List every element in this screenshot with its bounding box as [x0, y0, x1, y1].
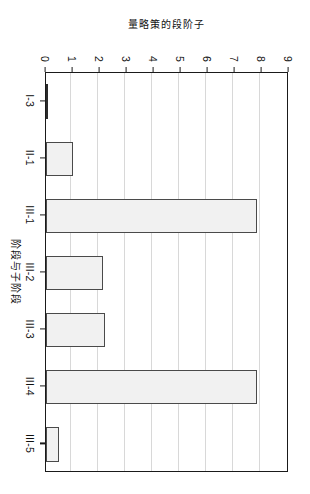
value-tick-label: 6	[201, 56, 213, 62]
bar-slot	[46, 370, 289, 404]
bar	[46, 370, 257, 404]
bar-slot	[46, 142, 289, 176]
bar-slot	[46, 427, 289, 461]
bar-series	[46, 73, 287, 471]
value-tick-label: 8	[255, 56, 267, 62]
bar-slot	[46, 84, 289, 118]
x-axis-title: 阶段与子阶段	[9, 72, 24, 472]
category-tick-label: III-5	[24, 434, 36, 453]
bar-slot	[46, 313, 289, 347]
plot-area	[45, 72, 288, 472]
chart-page: 0123456789 I-3II-1III-1III-2III-3III-4II…	[0, 0, 310, 494]
category-tick-label: I-3	[24, 94, 36, 107]
category-tick-label: III-4	[24, 377, 36, 396]
value-tick-label: 3	[120, 56, 132, 62]
bar	[46, 84, 48, 118]
rotated-figure-stage: 0123456789 I-3II-1III-1III-2III-3III-4II…	[0, 0, 310, 494]
category-tick-label: III-3	[24, 320, 36, 339]
bar	[46, 313, 105, 347]
category-tick-mark	[40, 214, 45, 215]
bar	[46, 142, 73, 176]
bar-chart: 0123456789 I-3II-1III-1III-2III-3III-4II…	[0, 0, 310, 494]
value-tick-label: 2	[93, 56, 105, 62]
value-tick-label: 4	[147, 56, 159, 62]
category-tick-mark	[40, 100, 45, 101]
bar	[46, 256, 103, 290]
category-tick-mark	[40, 329, 45, 330]
value-axis: 0123456789	[45, 0, 288, 72]
category-tick-mark	[40, 271, 45, 272]
category-tick-mark	[40, 443, 45, 444]
bar	[46, 427, 60, 461]
category-tick-label: II-1	[24, 150, 36, 166]
value-tick-label: 5	[174, 56, 186, 62]
value-tick-label: 9	[282, 56, 294, 62]
value-tick-label: 0	[39, 56, 51, 62]
y-axis-title: 量略策的段阶子	[45, 16, 288, 34]
value-tick-label: 1	[66, 56, 78, 62]
bar-slot	[46, 199, 289, 233]
category-tick-mark	[40, 157, 45, 158]
category-tick-label: III-2	[24, 262, 36, 281]
bar	[46, 199, 257, 233]
bar-slot	[46, 256, 289, 290]
value-tick-label: 7	[228, 56, 240, 62]
category-tick-mark	[40, 386, 45, 387]
category-tick-label: III-1	[24, 205, 36, 224]
